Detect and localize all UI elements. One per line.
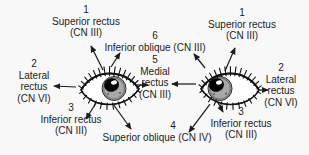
iris-speckle xyxy=(225,92,227,94)
label-number: 4 xyxy=(119,120,228,132)
label-text: rectus xyxy=(17,81,50,93)
label-text: Superior oblique (CN IV) xyxy=(103,132,212,144)
arrow-left-lateral-rectus xyxy=(54,86,76,87)
arrow-right-inferior-oblique xyxy=(194,54,205,68)
right-eye-illustration xyxy=(199,69,261,109)
label-text: Lateral xyxy=(17,70,50,82)
iris-speckle xyxy=(107,93,109,95)
label-lateral-rectus-left: 2 Lateral rectus (CN VI) xyxy=(17,58,50,104)
label-text: (CN III) xyxy=(40,125,101,137)
label-number: 3 xyxy=(40,102,101,114)
label-text: Superior rectus xyxy=(208,19,276,31)
label-number: 2 xyxy=(17,58,50,70)
label-number: 1 xyxy=(208,7,276,19)
label-superior-oblique: 4 Superior oblique (CN IV) xyxy=(103,120,212,143)
label-inferior-rectus-left: 3 Inferior rectus (CN III) xyxy=(40,102,101,137)
extraocular-muscles-diagram: 1 Superior rectus (CN III) 1 Superior re… xyxy=(0,0,309,155)
label-text: (CN III) xyxy=(139,89,171,101)
label-text: (CN III) xyxy=(208,30,276,42)
label-number: 5 xyxy=(139,54,171,66)
label-number: 2 xyxy=(264,62,297,74)
label-number: 1 xyxy=(52,4,120,16)
label-lateral-rectus-right: 2 Lateral rectus (CN VI) xyxy=(264,62,297,108)
label-text: Superior rectus xyxy=(52,16,120,28)
iris-speckle xyxy=(213,93,215,95)
iris-group xyxy=(102,76,126,100)
arrow-left-superior-rectus xyxy=(91,46,103,70)
arrow-left-inferior-oblique xyxy=(111,53,120,67)
label-number: 6 xyxy=(104,30,205,42)
label-number: 3 xyxy=(210,106,271,118)
iris-speckle xyxy=(119,92,121,94)
label-text: Medial xyxy=(139,66,171,78)
label-inferior-oblique: 6 Inferior oblique (CN III) xyxy=(104,30,205,53)
label-medial-rectus: 5 Medial rectus (CN III) xyxy=(139,54,171,100)
label-text: Lateral xyxy=(264,74,297,86)
label-text: rectus xyxy=(264,85,297,97)
label-text: rectus xyxy=(139,77,171,89)
label-text: Inferior oblique (CN III) xyxy=(104,42,205,54)
label-text: Inferior rectus xyxy=(40,114,101,126)
label-superior-rectus-right: 1 Superior rectus (CN III) xyxy=(208,7,276,42)
